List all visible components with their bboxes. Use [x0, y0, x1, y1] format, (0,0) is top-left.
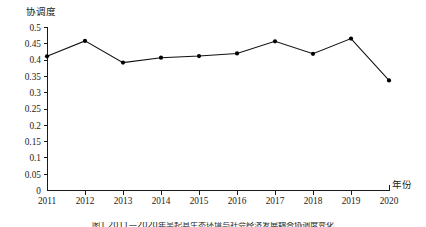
x-axis-title: 年份 [392, 179, 412, 190]
y-tick-label-0: 0 [36, 186, 41, 196]
data-point-2012 [83, 39, 87, 43]
x-tick-label-2017: 2017 [266, 196, 285, 206]
figure-caption: 图1 2011—2020年吴起县生态环境与社会经济发展耦合协调度变化 [0, 222, 426, 227]
x-tick-label-2015: 2015 [190, 196, 209, 206]
y-tick-label-4: 0.2 [29, 121, 41, 131]
series-line [47, 39, 389, 81]
x-tick-label-2019: 2019 [342, 196, 361, 206]
x-tick-label-2012: 2012 [76, 196, 95, 206]
x-axis-ticks [86, 191, 352, 195]
data-point-2016 [235, 51, 239, 55]
x-axis-tick-labels: 2011 2012 2013 2014 2015 2016 2017 2018 … [38, 196, 399, 206]
y-tick-label-6: 0.3 [29, 88, 41, 98]
y-tick-label-2: 0.1 [29, 153, 41, 163]
y-axis-ticks [44, 28, 48, 175]
x-tick-label-2014: 2014 [152, 196, 171, 206]
y-axis-tick-labels: 0.5 0.45 0.4 0.35 0.3 0.25 0.2 0.15 0.1 … [25, 23, 42, 196]
x-tick-label-2016: 2016 [228, 196, 247, 206]
y-tick-label-3: 0.15 [25, 137, 42, 147]
data-point-2019 [349, 37, 353, 41]
data-point-2013 [121, 61, 125, 65]
axes [48, 28, 390, 191]
figure-coordination-degree: 0.5 0.45 0.4 0.35 0.3 0.25 0.2 0.15 0.1 … [0, 0, 426, 227]
y-tick-label-5: 0.25 [25, 104, 42, 114]
x-tick-label-2013: 2013 [114, 196, 133, 206]
data-point-2015 [197, 54, 201, 58]
x-tick-label-2020: 2020 [380, 196, 399, 206]
data-point-2017 [273, 39, 277, 43]
y-axis-title: 协调度 [26, 6, 56, 17]
data-point-2018 [311, 52, 315, 56]
data-point-2011 [45, 54, 49, 58]
y-tick-label-10: 0.5 [29, 23, 41, 33]
x-tick-label-2018: 2018 [304, 196, 323, 206]
series-coordination-degree [45, 37, 391, 83]
y-tick-label-1: 0.05 [25, 170, 42, 180]
line-chart: 0.5 0.45 0.4 0.35 0.3 0.25 0.2 0.15 0.1 … [0, 0, 426, 227]
y-tick-label-9: 0.45 [25, 39, 42, 49]
y-tick-label-7: 0.35 [25, 72, 42, 82]
figure-caption-clip: 图1 2011—2020年吴起县生态环境与社会经济发展耦合协调度变化 [0, 222, 426, 227]
y-tick-label-8: 0.4 [29, 55, 41, 65]
x-tick-label-2011: 2011 [38, 196, 57, 206]
data-point-2020 [387, 78, 391, 82]
data-point-2014 [159, 56, 163, 60]
